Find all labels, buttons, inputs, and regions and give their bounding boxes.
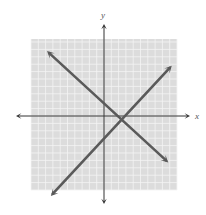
coordinate-graph: x y	[0, 0, 206, 215]
y-axis-label: y	[100, 10, 105, 20]
x-axis-label: x	[194, 111, 199, 121]
